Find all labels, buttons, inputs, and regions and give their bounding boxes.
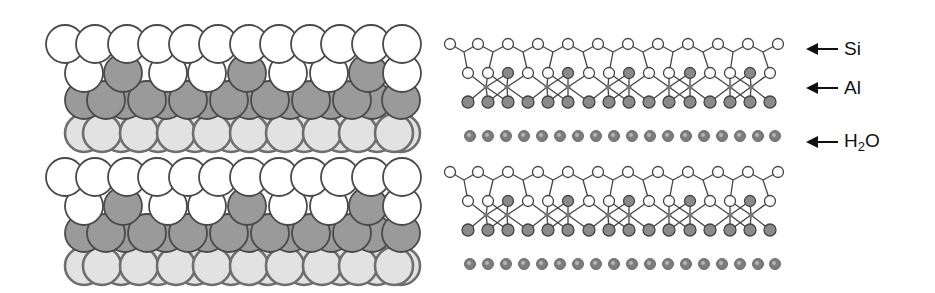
clay-structure-diagram — [0, 0, 935, 293]
oxygen-atom — [463, 196, 474, 207]
hydroxyl-atom — [663, 224, 675, 236]
top-oxygen-row — [46, 158, 421, 196]
aluminum-atom — [505, 213, 510, 218]
oxygen-atom — [743, 39, 754, 50]
hydroxyl-atom — [502, 224, 514, 236]
water-highlight — [503, 133, 507, 137]
aluminum-atom — [667, 213, 672, 218]
atom-white — [383, 25, 421, 63]
water-highlight — [539, 133, 543, 137]
water-highlight — [593, 133, 597, 137]
hydroxyl-atom — [522, 96, 534, 108]
aluminum-atom — [728, 213, 733, 218]
water-highlight — [611, 133, 615, 137]
water-highlight — [737, 261, 741, 265]
label-h2o: H2O — [808, 130, 880, 154]
oxygen-atom — [473, 167, 484, 178]
hydroxyl-atom — [603, 96, 615, 108]
atom-light — [83, 114, 121, 152]
oxygen-atom — [563, 167, 574, 178]
water-highlight — [755, 133, 759, 137]
hydroxyl-atom — [724, 224, 736, 236]
clay-layer-2 — [46, 158, 421, 285]
oxygen-atom — [543, 68, 554, 79]
water-highlight — [737, 133, 741, 137]
oxygen-atom — [683, 167, 694, 178]
atom-light — [193, 247, 231, 285]
label-al-text: Al — [844, 77, 861, 99]
water-highlight — [521, 261, 525, 265]
oxygen-atom — [543, 196, 554, 207]
hydroxyl-atom — [624, 196, 635, 207]
hydroxyl-atom — [583, 96, 595, 108]
label-al: Al — [808, 77, 861, 99]
hydroxyl-atom — [562, 224, 574, 236]
water-highlight — [485, 133, 489, 137]
water-highlight — [719, 133, 723, 137]
oxygen-atom — [765, 196, 776, 207]
hydroxyl-atom — [624, 68, 635, 79]
label-si: Si — [808, 38, 861, 60]
water-highlight — [467, 261, 471, 265]
water-highlight — [665, 261, 669, 265]
water-highlight — [557, 133, 561, 137]
atom-light — [193, 114, 231, 152]
water-row — [465, 131, 781, 142]
water-highlight — [467, 133, 471, 137]
hydroxyl-atom — [563, 196, 574, 207]
hydroxyl-atom — [745, 196, 756, 207]
sheet-2 — [445, 167, 784, 270]
hydroxyl-atom — [522, 224, 534, 236]
oxygen-atom — [503, 39, 514, 50]
oxygen-atom — [623, 167, 634, 178]
oxygen-atom — [563, 39, 574, 50]
aluminum-atom — [606, 213, 611, 218]
hydroxyl-atom — [643, 96, 655, 108]
oxygen-atom — [653, 39, 664, 50]
oxygen-atom — [705, 196, 716, 207]
oxygen-atom — [713, 39, 724, 50]
water-highlight — [629, 261, 633, 265]
hydroxyl-atom — [503, 196, 514, 207]
oxygen-atom — [725, 68, 736, 79]
hydroxyl-atom — [744, 96, 756, 108]
aluminum-atom — [627, 85, 632, 90]
arrow-left-icon — [808, 141, 838, 143]
hydroxyl-atom — [724, 96, 736, 108]
hydroxyl-atom — [623, 96, 635, 108]
water-row — [465, 259, 781, 270]
water-highlight — [647, 133, 651, 137]
arrow-left-icon — [808, 87, 838, 89]
hydroxyl-atom — [482, 96, 494, 108]
oxygen-atom — [773, 167, 784, 178]
water-highlight — [593, 261, 597, 265]
hydroxyl-atom — [503, 68, 514, 79]
hydroxyl-atom — [542, 96, 554, 108]
oxygen-atom — [584, 68, 595, 79]
hydroxyl-atom — [764, 96, 776, 108]
aluminum-atom — [667, 85, 672, 90]
water-highlight — [503, 261, 507, 265]
water-highlight — [611, 261, 615, 265]
aluminum-atom — [545, 85, 550, 90]
hydroxyl-atom — [462, 96, 474, 108]
hydroxyl-atom — [685, 196, 696, 207]
aluminum-atom — [545, 213, 550, 218]
hydroxyl-atom — [583, 224, 595, 236]
oxygen-atom — [483, 68, 494, 79]
water-highlight — [521, 133, 525, 137]
hydroxyl-atom — [745, 68, 756, 79]
top-oxygen-row — [46, 25, 421, 63]
hydroxyl-atom — [482, 224, 494, 236]
hydroxyl-atom — [684, 96, 696, 108]
oxygen-atom — [533, 167, 544, 178]
oxygen-atom — [725, 196, 736, 207]
oxygen-atom — [593, 39, 604, 50]
hydroxyl-atom — [623, 224, 635, 236]
arrow-left-icon — [808, 48, 838, 50]
oxygen-atom — [644, 196, 655, 207]
water-highlight — [719, 261, 723, 265]
oxygen-atom — [604, 68, 615, 79]
water-highlight — [683, 261, 687, 265]
hydroxyl-atom — [563, 68, 574, 79]
